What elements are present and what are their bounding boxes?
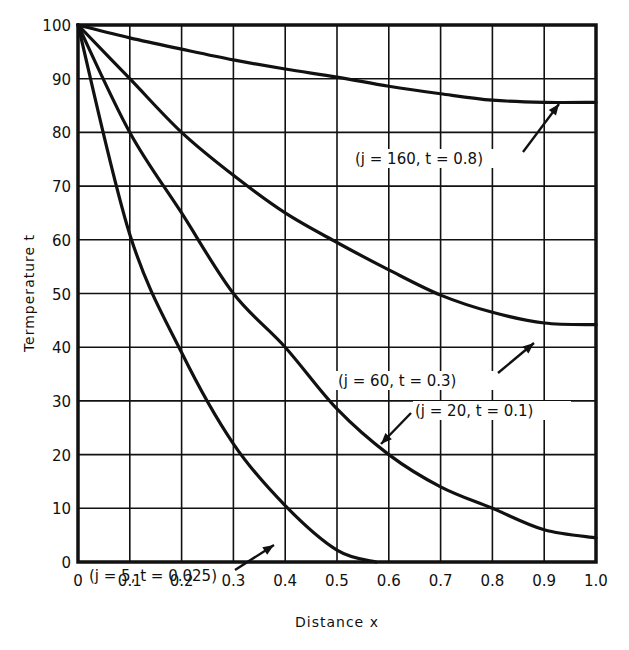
y-tick-label: 80 <box>52 124 71 142</box>
y-tick-label: 10 <box>52 500 71 518</box>
annotation-label: (j = 160, t = 0.8) <box>355 150 483 168</box>
y-tick-label: 60 <box>52 232 71 250</box>
x-tick-label: 0 <box>73 572 83 590</box>
y-axis-ticks: 0102030405060708090100 <box>42 17 71 572</box>
y-axis-label: Termperature t <box>21 234 37 353</box>
x-tick-label: 0.4 <box>273 572 297 590</box>
arrowhead-icon <box>262 545 274 555</box>
x-tick-label: 0.8 <box>480 572 504 590</box>
y-tick-label: 30 <box>52 393 71 411</box>
x-tick-label: 0.2 <box>170 572 194 590</box>
annotation-label: (j = 20, t = 0.1) <box>415 402 533 420</box>
x-tick-label: 0.9 <box>532 572 556 590</box>
y-tick-label: 50 <box>52 286 71 304</box>
y-tick-label: 20 <box>52 447 71 465</box>
x-tick-label: 0.6 <box>377 572 401 590</box>
curve-annotations: (j = 160, t = 0.8)(j = 60, t = 0.3)(j = … <box>87 104 571 585</box>
annotation-label: (j = 5, t = 0.025) <box>89 567 217 585</box>
x-tick-label: 0.7 <box>429 572 453 590</box>
y-tick-label: 40 <box>52 339 71 357</box>
x-tick-label: 0.1 <box>118 572 142 590</box>
y-tick-label: 100 <box>42 17 71 35</box>
y-tick-label: 90 <box>52 71 71 89</box>
x-axis-label: Distance x <box>295 614 379 630</box>
annotation-label: (j = 60, t = 0.3) <box>338 372 456 390</box>
x-tick-label: 0.3 <box>221 572 245 590</box>
annotation-2: (j = 20, t = 0.1) <box>381 401 571 444</box>
y-tick-label: 0 <box>61 554 71 572</box>
y-tick-label: 70 <box>52 178 71 196</box>
x-tick-label: 0.5 <box>325 572 349 590</box>
temperature-distance-chart: (j = 160, t = 0.8)(j = 60, t = 0.3)(j = … <box>0 0 629 650</box>
annotation-0: (j = 160, t = 0.8) <box>353 104 559 168</box>
x-tick-label: 1.0 <box>584 572 608 590</box>
annotation-1: (j = 60, t = 0.3) <box>336 343 534 390</box>
